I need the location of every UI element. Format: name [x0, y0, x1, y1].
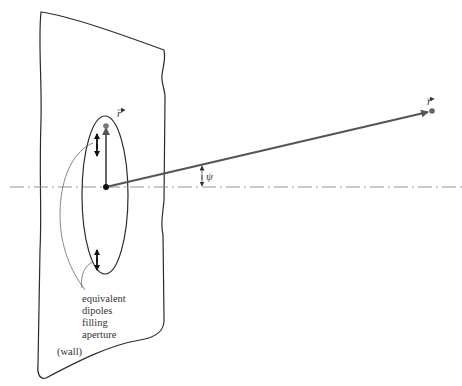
r-prime-point — [103, 123, 109, 129]
dipoles-label-line1: equivalent — [82, 293, 126, 304]
dipoles-label-line3: filling — [82, 317, 108, 328]
r-label: r — [427, 95, 432, 107]
leader-line-upper — [60, 143, 93, 290]
aperture-diagram: r′ r ψ equivalent dipoles filling apertu… — [0, 0, 462, 386]
dipoles-label-line4: aperture — [82, 329, 117, 340]
r-point — [429, 108, 435, 114]
dipoles-label-line2: dipoles — [82, 305, 112, 316]
wall-label: (wall) — [57, 346, 83, 358]
psi-label: ψ — [206, 170, 213, 182]
r-vector — [106, 112, 428, 187]
leader-line-lower — [82, 262, 93, 288]
origin-point — [103, 184, 109, 190]
r-prime-label: r′ — [117, 107, 124, 119]
